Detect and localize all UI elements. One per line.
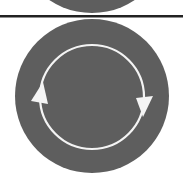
previous-icon-disc-fragment — [15, 0, 169, 13]
divider-line — [0, 15, 183, 18]
refresh-button[interactable] — [15, 19, 169, 173]
icon-canvas — [0, 0, 183, 178]
